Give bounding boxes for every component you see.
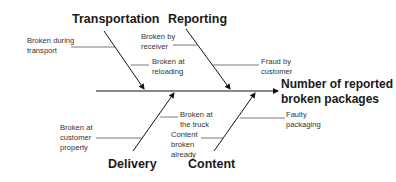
category-transportation: Transportation [72,12,160,26]
cause-line: property [60,143,93,153]
cause-line: Broken during [27,36,74,46]
cause-line: customer [261,67,292,77]
cause-line: Broken at [180,110,213,120]
cause-faulty-packaging: Faulty packaging [286,110,321,130]
cause-line: Content [171,130,198,140]
cause-broken-by-receiver: Broken by receiver [141,32,175,52]
cause-line: Broken by [141,32,175,42]
cause-line: Broken at [152,57,185,67]
cause-line: reloading [152,67,185,77]
cause-line: customer [60,133,93,143]
cause-broken-at-the-truck: Broken at the truck [180,110,213,130]
cause-broken-during-transport: Broken during transport [27,36,74,56]
cause-content-broken-already: Content broken already [171,130,198,160]
cause-line: the truck [180,120,213,130]
reporting-bone [186,29,230,89]
effect-label: Number of reported broken packages [281,77,393,107]
cause-line: Faulty [286,110,321,120]
transportation-bone [104,31,144,89]
delivery-bone [133,93,174,151]
cause-line: packaging [286,120,321,130]
effect-line: broken packages [281,92,393,107]
cause-line: Fraud by [261,57,292,67]
cause-broken-at-reloading: Broken at reloading [152,57,185,77]
category-reporting: Reporting [168,12,227,26]
cause-line: receiver [141,42,175,52]
cause-line: transport [27,46,74,56]
category-delivery: Delivery [108,157,157,171]
cause-fraud-by-customer: Fraud by customer [261,57,292,77]
cause-line: already [171,150,198,160]
cause-line: broken [171,140,198,150]
effect-line: Number of reported [281,77,393,92]
content-bone [214,93,255,151]
cause-broken-at-customer-property: Broken at customer property [60,123,93,153]
cause-line: Broken at [60,123,93,133]
